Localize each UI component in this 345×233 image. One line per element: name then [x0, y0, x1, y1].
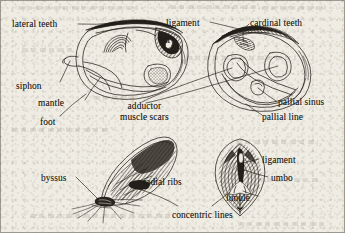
- label-foot: foot: [40, 117, 56, 128]
- label-byssus: byssus: [41, 173, 67, 184]
- panel-top-left: [62, 20, 188, 100]
- label-adductor-muscle-scars: adductor muscle scars: [120, 101, 169, 123]
- label-lateral-teeth: lateral teeth: [12, 19, 57, 30]
- label-adductor-line1: adductor muscle scars: [120, 101, 169, 122]
- label-pallial-line: pallial line: [262, 112, 303, 123]
- label-concentric-lines: concentric lines: [172, 210, 233, 221]
- label-cardinal-teeth: cardinal teeth: [250, 18, 302, 29]
- label-siphon: siphon: [16, 81, 42, 92]
- label-ligament-bottom: ligament: [262, 155, 296, 166]
- label-lunule: lunule: [226, 193, 250, 204]
- label-ligament-top: ligament: [166, 18, 200, 29]
- label-umbo: umbo: [271, 173, 293, 184]
- label-pallial-sinus: pallial sinus: [278, 97, 324, 108]
- figure-plate: lateral teeth pit siphon mantle foot lig…: [0, 0, 345, 233]
- panel-bottom-right: [215, 139, 265, 216]
- label-pit: pit: [160, 35, 170, 46]
- label-mantle: mantle: [38, 98, 64, 109]
- label-radial-ribs: radial ribs: [143, 177, 182, 188]
